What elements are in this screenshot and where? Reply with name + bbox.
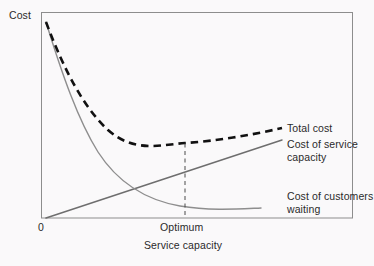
x-axis-origin-tick-label: 0 xyxy=(38,221,44,234)
series-label-cost-of-service-capacity: Cost of service capacity xyxy=(287,138,358,163)
y-axis-title: Cost xyxy=(9,9,31,22)
series-label-cost-of-customers-waiting-line-1: Cost of customers xyxy=(287,190,373,202)
series-label-cost-of-customers-waiting-line-2: waiting xyxy=(287,203,373,216)
x-axis-title: Service capacity xyxy=(144,239,222,252)
series-label-cost-of-customers-waiting: Cost of customers waiting xyxy=(287,190,373,215)
series-label-total-cost: Total cost xyxy=(287,122,332,135)
series-label-cost-of-service-capacity-line-1: Cost of service xyxy=(287,138,358,150)
x-axis-optimum-tick-label: Optimum xyxy=(160,221,203,234)
series-label-cost-of-service-capacity-line-2: capacity xyxy=(287,151,358,164)
